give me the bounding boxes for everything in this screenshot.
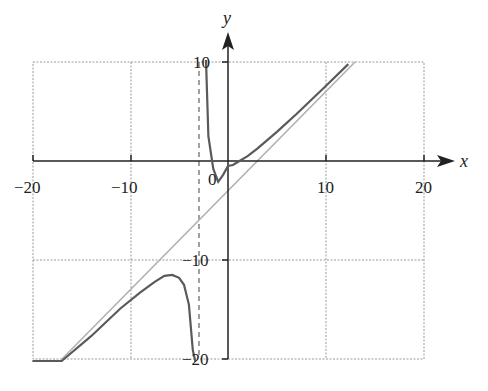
curve-left-branch: [32, 275, 195, 361]
origin-label: 0: [208, 170, 217, 189]
x-tick-label: 10: [317, 178, 334, 197]
x-tick-label: 20: [415, 178, 432, 197]
x-tick-label: −10: [111, 178, 138, 197]
y-tick-label: −20: [182, 350, 209, 369]
y-tick-label: 10: [193, 53, 210, 72]
function-graph: x y 0 −20 −10 10 20 10 −10 −20: [0, 0, 488, 391]
x-tick-label: −20: [14, 178, 41, 197]
y-tick-label: −10: [182, 251, 209, 270]
x-axis-label: x: [459, 151, 468, 171]
y-axis-label: y: [221, 8, 231, 28]
axes: [33, 46, 442, 359]
